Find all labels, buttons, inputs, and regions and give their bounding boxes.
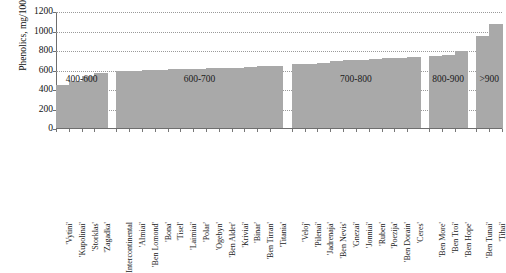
group-caption: >900 bbox=[476, 74, 502, 84]
x-category-label: 'Jonniai' bbox=[366, 222, 374, 248]
x-category-label: 'Titania' bbox=[280, 222, 288, 247]
y-tick-label: 600 bbox=[25, 66, 53, 76]
y-tick-label: 200 bbox=[25, 105, 53, 115]
x-category-label: 'Polar' bbox=[203, 222, 211, 242]
x-category-label: 'Ben Nevis' bbox=[340, 222, 348, 258]
x-category-label: 'Ben More' bbox=[439, 222, 447, 257]
x-category-label: 'Storklas' bbox=[92, 222, 100, 251]
x-category-label: 'Vytini' bbox=[66, 222, 74, 244]
x-category-label: 'Tihai' bbox=[499, 222, 506, 241]
x-category-label: 'Jadrenaja' bbox=[327, 222, 335, 255]
bar bbox=[442, 55, 455, 129]
x-category-label: 'Ben Lomond' bbox=[152, 222, 160, 267]
x-category-label: 'Zagadka' bbox=[104, 222, 112, 252]
bar-series bbox=[56, 12, 502, 129]
group-caption: 400-600 bbox=[56, 74, 107, 84]
plot-area: 400-600600-700700-800800-900>900 bbox=[56, 12, 502, 129]
x-category-label: 'Ben Troi' bbox=[452, 222, 460, 253]
group-caption: 600-700 bbox=[116, 74, 283, 84]
x-category-label: 'Ceres' bbox=[417, 222, 425, 243]
bar bbox=[429, 56, 442, 129]
group-caption: 700-800 bbox=[292, 74, 420, 84]
bar bbox=[407, 57, 420, 129]
x-category-label: 'Laimiai' bbox=[190, 222, 198, 250]
x-category-label: 'Tisel' bbox=[177, 222, 185, 241]
x-category-label: 'Kupolinai' bbox=[79, 222, 87, 257]
bar bbox=[394, 58, 407, 129]
x-category-label: 'Pilenai' bbox=[315, 222, 323, 247]
x-category-label: 'Ogebyn' bbox=[216, 222, 224, 250]
x-category-label: 'Bona' bbox=[165, 222, 173, 242]
x-category-label: 'Ruben' bbox=[379, 222, 387, 246]
x-category-label: 'Almiai' bbox=[139, 222, 147, 247]
bar bbox=[56, 85, 69, 129]
x-tick-mark bbox=[502, 129, 503, 132]
x-category-label: Intercontinental bbox=[126, 222, 134, 273]
x-category-label: 'Poezija' bbox=[391, 222, 399, 248]
x-category-label: 'Ben Dorain' bbox=[404, 222, 412, 262]
y-axis-tick-labels: 020040060080010001200 bbox=[20, 0, 53, 225]
bar bbox=[69, 81, 82, 129]
x-category-label: 'Binar' bbox=[254, 222, 262, 243]
bar bbox=[330, 61, 343, 129]
bar bbox=[343, 60, 356, 129]
bar bbox=[369, 59, 382, 129]
y-tick-label: 400 bbox=[25, 85, 53, 95]
x-category-label: 'Ben Hope' bbox=[465, 222, 473, 257]
y-tick-label: 800 bbox=[25, 46, 53, 56]
y-tick-label: 1000 bbox=[25, 27, 53, 37]
bar bbox=[356, 60, 369, 129]
x-axis-category-labels: 'Vytini''Kupolinai''Storklas''Zagadka'In… bbox=[56, 132, 502, 225]
bar bbox=[455, 51, 468, 129]
y-tick-label: 1200 bbox=[25, 7, 53, 17]
y-tick-label: 0 bbox=[25, 124, 53, 134]
x-category-label: 'Ben Tunai' bbox=[486, 222, 494, 258]
bar bbox=[382, 58, 395, 129]
x-category-label: 'Ben Tirran' bbox=[267, 222, 275, 259]
group-caption: 800-900 bbox=[429, 74, 467, 84]
x-category-label: 'Kriviai' bbox=[242, 222, 250, 248]
x-category-label: 'Veloj' bbox=[302, 222, 310, 242]
x-category-label: 'Ben Alder' bbox=[229, 222, 237, 258]
x-category-label: 'Gnezai' bbox=[353, 222, 361, 248]
